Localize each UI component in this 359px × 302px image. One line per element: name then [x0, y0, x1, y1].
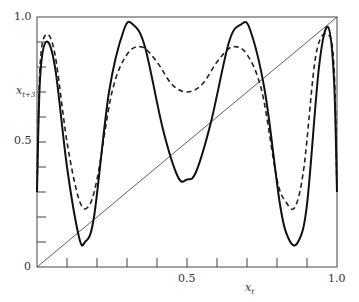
dashed-curve [37, 34, 337, 210]
diagonal-line [37, 17, 337, 267]
x-tick-label-0-5: 0.5 [178, 272, 196, 285]
y-tick-label-0: 0 [24, 260, 31, 273]
x-tick-label-1: 1.0 [328, 272, 346, 285]
y-tick-label-1: 1.0 [14, 10, 32, 23]
plot-area [0, 0, 359, 302]
y-axis-title: xt+3 [16, 84, 35, 99]
y-tick-label-0-5: 0.5 [14, 134, 32, 147]
x-axis-title: xt [245, 281, 254, 296]
solid-curve [37, 22, 337, 246]
